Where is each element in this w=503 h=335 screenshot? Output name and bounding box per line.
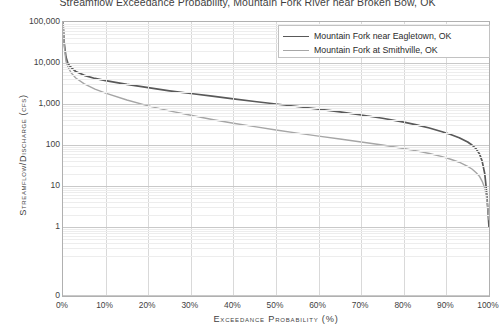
x-tick-label: 50% xyxy=(255,300,295,310)
x-tick-label: 80% xyxy=(383,300,423,310)
chart-legend: Mountain Fork near Eagletown, OKMountain… xyxy=(278,25,490,58)
x-tick-label: 0% xyxy=(42,300,82,310)
x-tick-label: 100% xyxy=(468,300,503,310)
y-axis-title: Streamflow/Discharge (cfs) xyxy=(18,40,28,270)
legend-item-label: Mountain Fork near Eagletown, OK xyxy=(314,31,451,41)
legend-item: Mountain Fork near Eagletown, OK xyxy=(283,29,485,43)
legend-line-swatch xyxy=(283,36,309,37)
x-tick-label: 10% xyxy=(85,300,125,310)
x-tick-label: 30% xyxy=(170,300,210,310)
legend-item: Mountain Fork at Smithville, OK xyxy=(283,43,485,57)
x-tick-label: 60% xyxy=(298,300,338,310)
x-tick-label: 70% xyxy=(340,300,380,310)
x-axis-title: Exceedance Probability (%) xyxy=(62,314,490,324)
legend-item-label: Mountain Fork at Smithville, OK xyxy=(314,45,438,55)
legend-line-swatch xyxy=(283,50,309,51)
x-tick-label: 90% xyxy=(425,300,465,310)
x-tick-label: 20% xyxy=(127,300,167,310)
x-tick-label: 40% xyxy=(212,300,252,310)
